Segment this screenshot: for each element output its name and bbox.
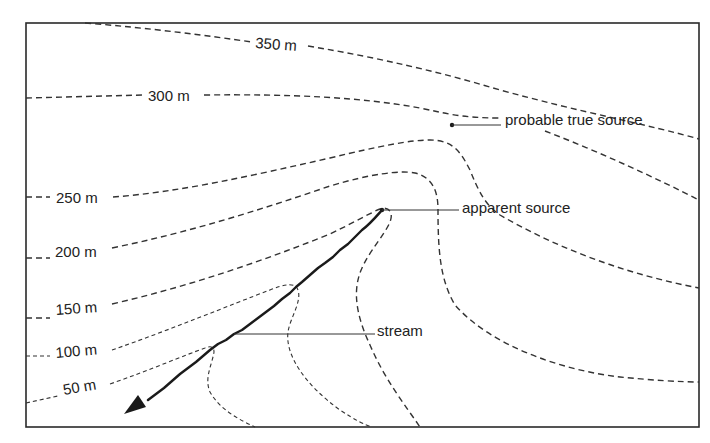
callout-apparent-source: apparent source	[462, 199, 570, 216]
stream-line	[148, 210, 382, 400]
callout-probable-true-source: probable true source	[505, 111, 643, 128]
callout-stream: stream	[377, 322, 423, 339]
contour-250	[26, 140, 699, 288]
map-frame	[26, 23, 699, 427]
contour-label-200: 200 m	[55, 243, 97, 260]
contour-map-diagram: 350 m 300 m 250 m 200 m 150 m 100 m 50 m…	[0, 0, 710, 443]
stream-arrowhead	[124, 395, 146, 414]
contour-label-150: 150 m	[55, 298, 98, 318]
contour-label-50: 50 m	[62, 375, 98, 398]
contour-label-300: 300 m	[148, 87, 190, 104]
contour-label-100: 100 m	[55, 340, 98, 361]
contour-200	[26, 172, 699, 382]
contour-label-350: 350 m	[255, 34, 298, 54]
contour-label-250: 250 m	[56, 189, 98, 206]
